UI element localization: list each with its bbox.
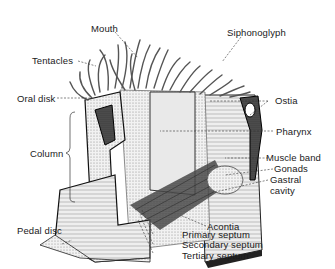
label-muscle-band: Muscle band xyxy=(266,153,321,163)
label-gonads: Gonads xyxy=(274,164,308,174)
label-column: Column xyxy=(30,149,63,159)
label-siphonoglyph: Siphonoglyph xyxy=(227,28,286,38)
label-tertiary-septum: Tertiary septum xyxy=(182,251,248,261)
label-pedal-disc: Pedal disc xyxy=(17,226,62,236)
label-cavity: cavity xyxy=(270,186,295,196)
label-oral-disk: Oral disk xyxy=(17,94,55,104)
label-secondary-septum: Secondary septum xyxy=(182,240,263,250)
anemone-diagram: Mouth Siphonoglyph Tentacles Ostia Oral … xyxy=(0,0,335,269)
label-ostia: Ostia xyxy=(275,96,298,106)
label-pharynx: Pharynx xyxy=(276,127,312,137)
label-gastral: Gastral xyxy=(270,175,301,185)
label-mouth: Mouth xyxy=(91,24,118,34)
label-tentacles: Tentacles xyxy=(32,56,73,66)
gonad-shape xyxy=(207,166,243,194)
